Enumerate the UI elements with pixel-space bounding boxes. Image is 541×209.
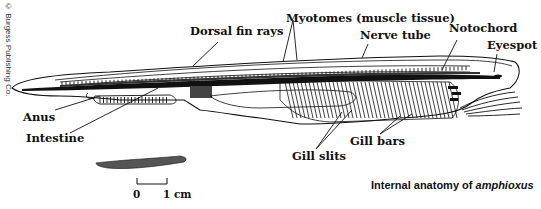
gill-bar <box>413 82 421 118</box>
label-dorsal-fin-rays: Dorsal fin rays <box>190 26 283 38</box>
gill-bar <box>321 82 329 118</box>
label-myotomes: Myotomes (muscle tissue) <box>286 13 455 25</box>
gill-bar <box>289 82 297 118</box>
gill-bar <box>421 82 429 118</box>
gill-bar <box>369 82 377 118</box>
gill-bar <box>417 82 425 118</box>
gill-bar <box>361 82 369 118</box>
label-anus: Anus <box>23 112 55 124</box>
caption-species: amphioxus <box>476 179 534 191</box>
gill-bar <box>377 82 385 118</box>
label-intestine: Intestine <box>26 133 84 145</box>
gill-bar <box>373 82 381 118</box>
gill-bar <box>329 82 337 118</box>
gill-bar <box>285 82 293 118</box>
label-notochord: Notochord <box>449 23 517 35</box>
gill-bar <box>309 82 317 118</box>
gill-bar <box>333 82 341 118</box>
gill-bar <box>393 82 401 118</box>
label-gill-bars: Gill bars <box>350 136 405 148</box>
gill-bar <box>341 82 349 118</box>
gill-bars-group <box>285 82 457 118</box>
amphioxus-diagram: © Burgess Publishing Co. Dorsal fin rays… <box>0 0 541 209</box>
gonad-block <box>190 86 212 98</box>
caption-prefix: Internal anatomy of <box>371 179 476 191</box>
label-eyespot: Eyespot <box>487 40 537 52</box>
scale-start-label: 0 <box>133 188 140 200</box>
gill-bar <box>317 82 325 118</box>
gill-bar <box>425 82 433 118</box>
gill-bar <box>397 82 405 118</box>
gill-bar <box>441 82 449 118</box>
gill-bar <box>313 82 321 118</box>
figure-caption: Internal anatomy of amphioxus <box>371 179 534 191</box>
gill-bar <box>337 82 345 118</box>
velum <box>448 86 461 101</box>
gill-bar <box>381 82 389 118</box>
small-amphioxus <box>96 156 186 169</box>
gill-bar <box>437 82 445 118</box>
gill-bar <box>357 82 365 118</box>
gill-bar <box>293 82 301 118</box>
gill-bar <box>305 82 313 118</box>
gill-bar <box>365 82 373 118</box>
gill-bar <box>325 82 333 118</box>
gill-bar <box>433 82 441 118</box>
eyespot <box>494 74 502 77</box>
scale-bar <box>137 178 167 184</box>
gill-bar <box>297 82 305 118</box>
label-gill-slits: Gill slits <box>292 151 346 163</box>
pharynx-outline <box>210 90 355 108</box>
label-nerve-tube: Nerve tube <box>360 30 431 42</box>
gill-bar <box>429 82 437 118</box>
copyright-notice: © Burgess Publishing Co. <box>4 2 12 96</box>
gill-bar <box>405 82 413 118</box>
gill-bar <box>301 82 309 118</box>
gill-bar <box>389 82 397 118</box>
gill-bar <box>385 82 393 118</box>
gill-bar <box>409 82 417 118</box>
scale-end-label: 1 cm <box>163 188 191 200</box>
gill-bar <box>401 82 409 118</box>
